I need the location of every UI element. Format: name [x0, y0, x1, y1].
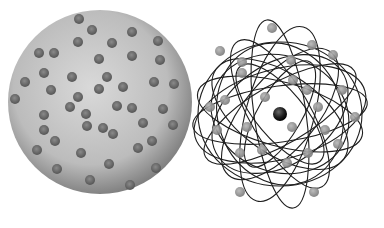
electron-dot [149, 77, 159, 87]
nuclear-atom-model [183, 16, 376, 211]
electron-dot [98, 123, 108, 133]
electron-dot [20, 77, 30, 87]
electron-dot [32, 145, 42, 155]
electron-dot [85, 175, 95, 185]
positive-sphere [8, 10, 192, 194]
electron [257, 145, 267, 155]
electron-dot [158, 104, 168, 114]
electron [309, 187, 319, 197]
electron [242, 122, 252, 132]
electron-dot [151, 163, 161, 173]
electron-dot [39, 68, 49, 78]
electron [288, 75, 298, 85]
electron [235, 148, 245, 158]
electron-dot [104, 159, 114, 169]
electron-dot [39, 110, 49, 120]
electron-dot [127, 103, 137, 113]
electron-dot [39, 125, 49, 135]
electron-dot [133, 143, 143, 153]
electron-dot [76, 148, 86, 158]
electron-dot [107, 38, 117, 48]
electron-dot [82, 121, 92, 131]
electron-dot [46, 85, 56, 95]
electron-dot [50, 136, 60, 146]
electron [313, 102, 323, 112]
electron-dot [73, 92, 83, 102]
electron [215, 46, 225, 56]
electron-dot [112, 101, 122, 111]
electron [287, 122, 297, 132]
electron [333, 139, 343, 149]
electron [350, 112, 360, 122]
electron-dot [52, 164, 62, 174]
electron-dot [155, 55, 165, 65]
electron [205, 102, 215, 112]
atom-models-figure [0, 0, 384, 228]
electron-dot [74, 14, 84, 24]
electron-dot [127, 27, 137, 37]
electron [320, 125, 330, 135]
electron [282, 158, 292, 168]
electron [302, 85, 312, 95]
electron-dot [108, 129, 118, 139]
electron-dot [81, 109, 91, 119]
electron-dot [65, 102, 75, 112]
electron-dot [10, 94, 20, 104]
electron-dot [118, 82, 128, 92]
electron [337, 85, 347, 95]
plum-pudding-model [8, 10, 192, 194]
electron-dot [138, 118, 148, 128]
electron-dot [34, 48, 44, 58]
electron-dot [87, 25, 97, 35]
electron-dot [169, 79, 179, 89]
electron [220, 95, 230, 105]
electron-dot [168, 120, 178, 130]
electron [286, 55, 296, 65]
electron [260, 92, 270, 102]
electron-dot [127, 51, 137, 61]
electron-dot [94, 84, 104, 94]
electron [235, 187, 245, 197]
electron-dot [49, 48, 59, 58]
electron [328, 50, 338, 60]
electron-dot [153, 36, 163, 46]
electron [267, 23, 277, 33]
electron [237, 57, 247, 67]
electron [307, 40, 317, 50]
electron-dot [102, 72, 112, 82]
electron [237, 68, 247, 78]
electron [303, 148, 313, 158]
electron-dot [73, 37, 83, 47]
nucleus [273, 107, 287, 121]
electron-dot [125, 180, 135, 190]
electron-dot [147, 136, 157, 146]
electron [212, 125, 222, 135]
electron-dot [67, 72, 77, 82]
electron-dot [94, 54, 104, 64]
figure-canvas [0, 0, 384, 228]
